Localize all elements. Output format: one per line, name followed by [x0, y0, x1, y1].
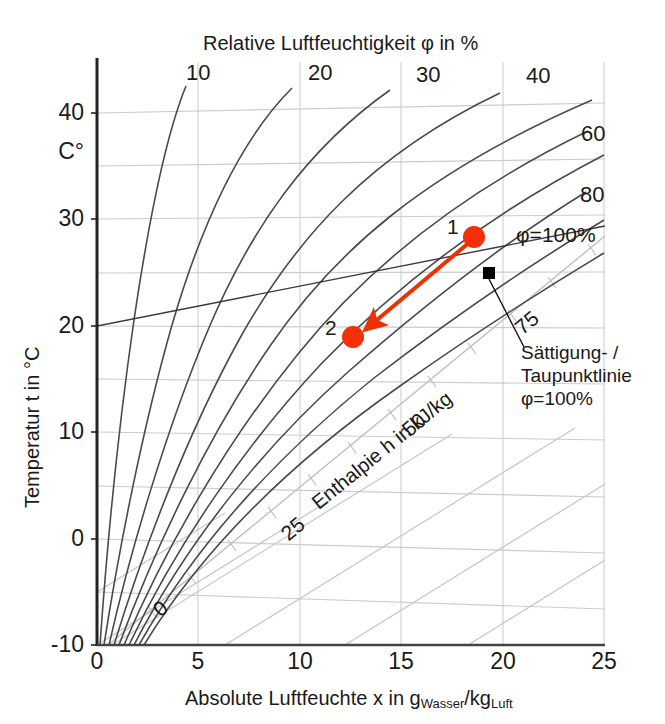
state-point-1-label: 1 [447, 216, 459, 237]
x-axis-title: Absolute Luftfeuchte x in gWasser/kgLuft [185, 688, 513, 710]
x-tick-15: 15 [381, 650, 421, 673]
x-tick-25: 25 [584, 650, 624, 673]
psychrometric-chart-figure: Relative Luftfeuchtigkeit φ in % 40 C° 3… [0, 0, 665, 724]
rh-curve-label-60: 60 [581, 123, 605, 145]
x-axis-title-mid: /kg [464, 687, 491, 709]
saturation-annotation-line2: Taupunktlinie [521, 364, 632, 387]
saturation-annotation-line1: Sättigung- / [521, 341, 632, 364]
state-point-2-label: 2 [325, 317, 337, 338]
x-tick-0: 0 [77, 650, 117, 673]
saturation-annotation: Sättigung- / Taupunktlinie φ=100% [521, 341, 632, 411]
state-point-2-marker[interactable] [342, 326, 364, 348]
y-axis-title: Temperatur t in °C [22, 347, 42, 508]
y-axis-unit-note: C° [24, 140, 84, 163]
y-tick-30: 30 [24, 207, 84, 230]
x-tick-5: 5 [178, 650, 218, 673]
rh-curve-label-30: 30 [416, 64, 440, 86]
dew-point-marker[interactable] [483, 267, 495, 279]
rh-curve-label-80: 80 [580, 184, 604, 206]
y-tick-40: 40 [24, 101, 84, 124]
rh-curve-label-20: 20 [308, 62, 332, 84]
y-tick-20: 20 [24, 314, 84, 337]
rh-curve-label-10: 10 [186, 62, 210, 84]
chart-top-title: Relative Luftfeuchtigkeit φ in % [203, 33, 478, 53]
x-axis-title-main: Absolute Luftfeuchte x in g [185, 687, 421, 709]
y-tick-minus10: -10 [14, 633, 84, 656]
y-tick-0: 0 [24, 527, 84, 550]
x-axis-title-sub-luft: Luft [491, 696, 513, 711]
rh-curve-label-100: φ=100% [516, 224, 596, 245]
rh-curve-label-40: 40 [526, 65, 550, 87]
state-point-1-marker[interactable] [463, 226, 485, 248]
x-tick-10: 10 [280, 650, 320, 673]
x-axis-title-sub-wasser: Wasser [421, 696, 465, 711]
saturation-annotation-line3: φ=100% [521, 387, 632, 410]
x-tick-20: 20 [483, 650, 523, 673]
